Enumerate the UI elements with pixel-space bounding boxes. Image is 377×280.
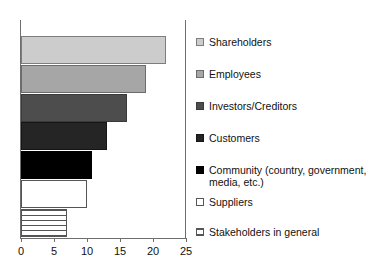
bar-investors-creditors xyxy=(21,94,127,122)
black-swatch-icon xyxy=(196,166,204,174)
dark-gray-swatch-icon xyxy=(196,102,204,110)
legend-item[interactable]: Shareholders xyxy=(196,36,377,48)
bar-stakeholders-in-general xyxy=(21,209,67,237)
legend-item-label: Employees xyxy=(209,68,261,80)
plot-area xyxy=(20,20,186,238)
legend-item[interactable]: Customers xyxy=(196,132,377,144)
bar-series xyxy=(21,36,186,238)
legend-item-label: Suppliers xyxy=(209,196,253,208)
x-axis-tick-label: 5 xyxy=(39,244,69,258)
legend-item-label: Shareholders xyxy=(209,36,271,48)
x-axis-tick xyxy=(120,238,121,242)
medium-gray-swatch-icon xyxy=(196,70,204,78)
legend-item[interactable]: Investors/Creditors xyxy=(196,100,377,112)
white-swatch-icon xyxy=(196,198,204,206)
x-axis-tick xyxy=(153,238,154,242)
bar-chart: 0510152025 ShareholdersEmployeesInvestor… xyxy=(0,0,377,280)
x-axis: 0510152025 xyxy=(0,238,377,268)
x-axis-tick-label: 0 xyxy=(6,244,36,258)
light-gray-swatch-icon xyxy=(196,38,204,46)
horizontal-stripe-swatch-icon xyxy=(196,228,204,236)
bar-community xyxy=(21,151,92,179)
bar-shareholders xyxy=(21,36,166,64)
bar-customers xyxy=(21,122,107,150)
legend-item[interactable]: Employees xyxy=(196,68,377,80)
x-axis-tick-label: 10 xyxy=(72,244,102,258)
very-dark-gray-swatch-icon xyxy=(196,134,204,142)
legend-item[interactable]: Suppliers xyxy=(196,196,377,208)
legend-item[interactable]: Stakeholders in general xyxy=(196,226,377,238)
legend-item[interactable]: Community (country, government, media, e… xyxy=(196,164,377,188)
x-axis-tick-label: 20 xyxy=(138,244,168,258)
legend-item-label: Stakeholders in general xyxy=(209,226,319,238)
legend-item-label: Community (country, government, media, e… xyxy=(209,164,366,188)
x-axis-tick xyxy=(54,238,55,242)
legend-item-label: Customers xyxy=(209,132,260,144)
x-axis-tick xyxy=(21,238,22,242)
x-axis-tick-label: 15 xyxy=(105,244,135,258)
legend-item-label: Investors/Creditors xyxy=(209,100,297,112)
x-axis-tick-label: 25 xyxy=(171,244,201,258)
x-axis-tick xyxy=(186,238,187,242)
x-axis-tick xyxy=(87,238,88,242)
bar-suppliers xyxy=(21,180,87,208)
bar-employees xyxy=(21,65,146,93)
